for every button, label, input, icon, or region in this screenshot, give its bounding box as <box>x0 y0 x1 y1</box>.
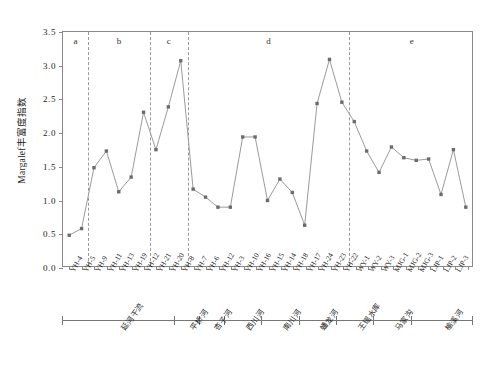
bracket-tick <box>174 316 175 325</box>
y-tick-label: 0.5 <box>43 229 56 239</box>
group-label-b: b <box>117 36 122 46</box>
data-point <box>80 227 83 230</box>
data-point <box>377 171 380 174</box>
bracket-tick <box>472 316 473 325</box>
data-point <box>452 148 455 151</box>
data-point <box>191 187 194 190</box>
data-point <box>315 102 318 105</box>
y-tick <box>59 133 63 134</box>
data-point <box>353 120 356 123</box>
y-tick-label: 2.5 <box>43 94 56 104</box>
data-point <box>154 148 157 151</box>
plot-inner: 0.00.51.01.52.02.53.03.5abcde <box>63 32 472 266</box>
data-point <box>303 224 306 227</box>
y-tick <box>59 66 63 67</box>
y-tick <box>59 167 63 168</box>
chart-root: Margalef丰富度指数 0.00.51.01.52.02.53.03.5ab… <box>0 0 487 367</box>
series-line <box>69 59 466 235</box>
data-point <box>402 156 405 159</box>
data-point <box>229 205 232 208</box>
y-tick-label: 3.5 <box>43 27 56 37</box>
data-point <box>390 145 393 148</box>
y-tick <box>59 32 63 33</box>
group-label-d: d <box>266 36 271 46</box>
group-divider <box>349 32 350 266</box>
y-tick-label: 1.0 <box>43 196 56 206</box>
data-point <box>291 191 294 194</box>
data-point <box>253 135 256 138</box>
x-axis-tick-labels: YH-4YH-5YH-9YH-11YH-13YH-19YH-12YH-21YH-… <box>62 269 473 315</box>
group-divider <box>188 32 189 266</box>
data-point <box>167 105 170 108</box>
data-point <box>340 101 343 104</box>
y-tick <box>59 234 63 235</box>
data-point <box>328 58 331 61</box>
y-tick <box>59 99 63 100</box>
plot-area: 0.00.51.01.52.02.53.03.5abcde <box>62 31 473 267</box>
data-point <box>365 149 368 152</box>
data-point <box>92 166 95 169</box>
data-point <box>216 205 219 208</box>
y-tick-label: 1.5 <box>43 162 56 172</box>
data-point <box>179 59 182 62</box>
data-point <box>278 177 281 180</box>
data-point <box>204 195 207 198</box>
group-label-e: e <box>410 36 414 46</box>
data-point <box>129 175 132 178</box>
y-tick <box>59 201 63 202</box>
data-point <box>105 149 108 152</box>
line-series <box>63 32 472 266</box>
data-point <box>266 199 269 202</box>
group-label-a: a <box>73 36 77 46</box>
data-point <box>117 190 120 193</box>
group-divider <box>150 32 151 266</box>
bracket-tick <box>62 316 63 325</box>
y-tick-label: 2.0 <box>43 128 56 138</box>
y-axis-title: Margalef丰富度指数 <box>14 40 28 240</box>
region-labels: 延河干流平桥河杏子河西川河南川河蟠龙河王瑶水库马家沟榆溪河 <box>62 326 473 366</box>
data-point <box>142 111 145 114</box>
data-point <box>464 205 467 208</box>
group-divider <box>88 32 89 266</box>
group-label-c: c <box>167 36 171 46</box>
data-point <box>241 135 244 138</box>
y-tick-label: 3.0 <box>43 61 56 71</box>
data-point <box>427 157 430 160</box>
data-point <box>415 159 418 162</box>
data-point <box>68 234 71 237</box>
y-tick-label: 0.0 <box>43 263 56 273</box>
data-point <box>439 193 442 196</box>
